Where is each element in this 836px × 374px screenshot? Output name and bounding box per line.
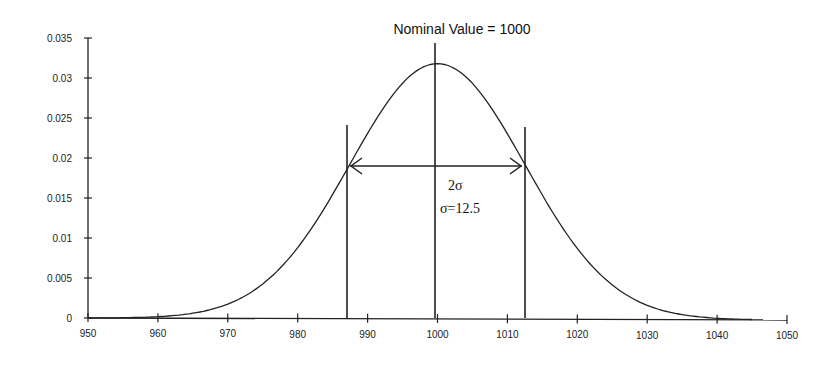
two-sigma-arrow	[350, 158, 522, 174]
y-tick-label: 0.015	[47, 193, 72, 204]
y-tick-label: 0.01	[53, 233, 73, 244]
y-tick-label: 0.02	[53, 153, 73, 164]
x-axis: 950960970980990100010101020103010401050	[80, 313, 799, 341]
x-tick-label: 1000	[426, 329, 449, 340]
normal-curve	[88, 64, 752, 320]
x-tick-label: 1010	[496, 329, 519, 340]
x-tick-label: 1050	[776, 330, 799, 341]
x-tick-label: 1020	[566, 329, 589, 340]
sigma-lines	[347, 43, 525, 318]
x-tick-label: 1030	[636, 330, 659, 341]
x-tick-label: 990	[359, 329, 376, 340]
y-tick-label: 0.025	[47, 113, 72, 124]
y-tick-label: 0	[66, 313, 72, 324]
x-tick-label: 1040	[706, 330, 729, 341]
two-sigma-label: 2σ	[448, 178, 463, 193]
chart: 00.0050.010.0150.020.0250.030.035 950960…	[0, 0, 836, 374]
sigma-value-label: σ=12.5	[440, 201, 480, 216]
y-tick-label: 0.035	[47, 33, 72, 44]
x-tick-label: 960	[150, 328, 167, 339]
x-tick-label: 970	[219, 328, 236, 339]
x-tick-label: 950	[80, 328, 97, 339]
y-tick-label: 0.005	[47, 273, 72, 284]
y-tick-label: 0.03	[53, 73, 73, 84]
y-axis: 00.0050.010.0150.020.0250.030.035	[47, 33, 92, 324]
chart-title: Nominal Value = 1000	[393, 21, 530, 37]
x-tick-label: 980	[289, 329, 306, 340]
